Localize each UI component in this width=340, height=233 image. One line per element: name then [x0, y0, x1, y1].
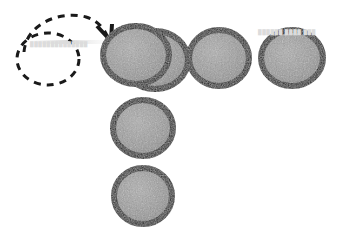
disc-body	[113, 100, 173, 156]
watermark-right: ██████ ████ ███	[258, 29, 316, 35]
disc-front-1[interactable]	[103, 26, 169, 84]
disc-body	[189, 30, 249, 86]
disc-5[interactable]	[114, 168, 172, 224]
disc-body	[103, 26, 169, 84]
disc-3[interactable]	[261, 30, 323, 86]
disc-body	[261, 30, 323, 86]
watermark-left: ██████████████	[30, 41, 88, 47]
disc-body	[114, 168, 172, 224]
diagram-canvas: ██████ ████ ███ ██████████████	[0, 0, 340, 233]
disc-4[interactable]	[113, 100, 173, 156]
disc-2[interactable]	[189, 30, 249, 86]
